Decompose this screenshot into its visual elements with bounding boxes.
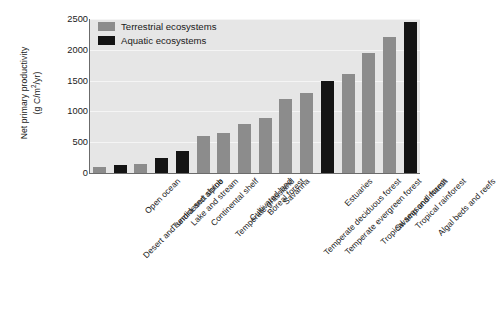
bar [197, 136, 210, 173]
bar [300, 93, 313, 173]
bar [217, 133, 230, 173]
y-axis-tick-label: 1000 [67, 106, 88, 116]
y-axis-tick-label: 2500 [67, 14, 88, 24]
legend-label: Aquatic ecosystems [121, 35, 206, 46]
bar [176, 151, 189, 173]
legend-item: Terrestrial ecosystems [98, 21, 216, 32]
y-axis-tick: 2500 [67, 13, 88, 25]
y-axis-tick: 2000 [67, 44, 88, 56]
y-axis-tick-label: 500 [72, 137, 88, 147]
bar [362, 53, 375, 173]
y-axis-unit-exponent: 2 [30, 84, 37, 88]
bar [342, 74, 355, 173]
bar [383, 37, 396, 173]
legend-label: Terrestrial ecosystems [121, 21, 216, 32]
legend-swatch [98, 22, 115, 31]
y-axis-tick-label: 0 [83, 168, 88, 178]
legend-swatch [98, 36, 115, 45]
y-axis-tick-label: 1500 [67, 76, 88, 86]
y-axis-tick: 1500 [67, 75, 88, 87]
bar [155, 158, 168, 173]
x-axis-labels: Desert and semidesert shrubOpen oceanTun… [89, 176, 419, 306]
y-axis-tick: 1000 [67, 105, 88, 117]
legend: Terrestrial ecosystemsAquatic ecosystems [98, 21, 216, 46]
y-axis-tick: 0 [83, 167, 88, 179]
x-axis-label: Open ocean [143, 176, 183, 216]
bar [259, 118, 272, 173]
y-axis: 05001000150020002500 [38, 0, 88, 309]
bar [134, 164, 147, 173]
bar [321, 81, 334, 173]
legend-item: Aquatic ecosystems [98, 35, 216, 46]
bar [279, 99, 292, 173]
y-axis-tick-label: 2000 [67, 45, 88, 55]
bar [404, 22, 417, 173]
y-axis-title-line1: Net primary productivity [20, 47, 30, 140]
bar [93, 167, 106, 173]
bar [114, 165, 127, 173]
y-axis-tick: 500 [72, 136, 88, 148]
bar [238, 124, 251, 173]
